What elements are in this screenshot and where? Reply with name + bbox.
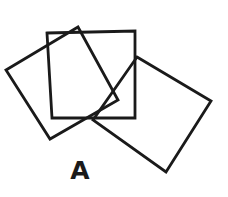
figure-container: A [0, 0, 228, 197]
figure-label: A [0, 157, 160, 185]
